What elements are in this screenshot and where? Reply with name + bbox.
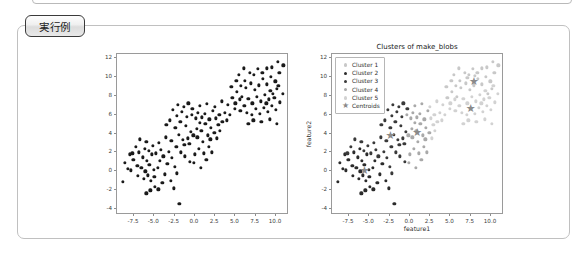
scatter-point	[435, 100, 438, 103]
legend-star-icon: ★	[339, 102, 352, 110]
x-tick-mark	[409, 214, 410, 216]
scatter-point	[492, 85, 495, 88]
scatter-point	[349, 145, 352, 148]
scatter-point	[428, 131, 431, 134]
scatter-point	[358, 147, 361, 150]
scatter-point	[405, 113, 408, 116]
scatter-point	[482, 98, 485, 101]
scatter-point	[486, 92, 489, 95]
scatter-point	[496, 92, 499, 95]
scatter-point	[381, 162, 384, 165]
scatter-point	[386, 157, 389, 160]
x-tick-mark	[348, 214, 349, 216]
legend-entry: ★Centroids	[339, 102, 380, 110]
scatter-point	[396, 139, 399, 142]
y-tick-mark	[329, 95, 331, 96]
scatter-point	[454, 85, 457, 88]
legend-entry-label: Cluster 5	[352, 95, 378, 101]
scatter-point	[401, 137, 404, 140]
scatter-point	[416, 116, 419, 119]
legend-entry-label: Centroids	[352, 103, 380, 109]
scatter-point	[448, 107, 451, 110]
section-tab-label: 実行例	[25, 15, 85, 37]
scatter-point	[493, 71, 496, 74]
y-tick-mark	[329, 114, 331, 115]
scatter-point	[450, 90, 453, 93]
scatter-point	[397, 105, 400, 108]
y-tick-label: 12	[313, 54, 327, 60]
scatter-point	[443, 113, 446, 116]
scatter-point	[357, 177, 360, 180]
cluster-dot-icon	[344, 63, 347, 66]
scatter-point	[433, 129, 436, 132]
scatter-point	[441, 103, 444, 106]
scatter-point	[360, 192, 363, 195]
legend-dot-icon	[339, 88, 352, 91]
scatter-point	[460, 111, 463, 114]
x-tick-mark	[368, 214, 369, 216]
scatter-point	[426, 109, 429, 112]
scatter-point	[372, 188, 375, 191]
scatter-point	[400, 115, 403, 118]
scatter-point	[446, 96, 449, 99]
x-tick-mark	[449, 214, 450, 216]
scatter-point	[445, 85, 448, 88]
scatter-point	[355, 166, 358, 169]
scatter-point	[423, 118, 426, 121]
scatter-point	[364, 179, 367, 182]
legend-entry-label: Cluster 4	[352, 87, 378, 93]
legend-entry-label: Cluster 2	[352, 70, 378, 76]
scatter-point	[336, 180, 339, 183]
scatter-point	[393, 202, 396, 205]
scatter-point	[351, 164, 354, 167]
legend-dot-icon	[339, 80, 352, 83]
centroid-star-marker: ★	[412, 126, 422, 137]
scatter-point	[394, 121, 397, 124]
scatter-point	[369, 152, 372, 155]
scatter-point	[408, 153, 411, 156]
scatter-point	[467, 119, 470, 122]
x-tick-label: -7.5	[343, 218, 354, 224]
cluster-dot-icon	[344, 88, 347, 91]
scatter-point	[472, 67, 475, 70]
execution-example-container: -7.5-5.0-2.50.02.55.07.510.0-4-202468101…	[17, 25, 570, 239]
scatter-point	[430, 137, 433, 140]
x-tick-label: 5.0	[445, 218, 454, 224]
scatter-point	[450, 79, 453, 82]
scatter-point	[475, 121, 478, 124]
legend-entry-label: Cluster 3	[352, 78, 378, 84]
scatter-point	[459, 79, 462, 82]
scatter-point	[490, 87, 493, 90]
scatter-point	[394, 151, 397, 154]
scatter-point	[402, 102, 405, 105]
scatter-point	[463, 71, 466, 74]
scatter-point	[416, 140, 419, 143]
scatter-point	[477, 106, 480, 109]
scatter-point	[395, 110, 398, 113]
y-tick-label: -4	[313, 205, 327, 211]
scatter-point	[420, 103, 423, 106]
y-tick-mark	[329, 76, 331, 77]
scatter-point	[462, 97, 465, 100]
legend-entry: Cluster 2	[339, 69, 380, 77]
scatter-point	[425, 151, 428, 154]
legend-entry-label: Cluster 1	[352, 62, 378, 68]
x-tick-label: 10.0	[484, 218, 496, 224]
scatter-point	[489, 108, 492, 111]
scatter-point	[376, 181, 379, 184]
scatter-point	[346, 152, 349, 155]
scatter-point	[480, 67, 483, 70]
scatter-point	[485, 104, 488, 107]
legend-entry: Cluster 1	[339, 61, 380, 69]
scatter-point	[365, 153, 368, 156]
scatter-point	[380, 123, 383, 126]
scatter-point	[432, 123, 435, 126]
x-tick-label: 2.5	[425, 218, 434, 224]
scatter-point	[353, 138, 356, 141]
scatter-point	[457, 67, 460, 70]
scatter-point	[362, 149, 365, 152]
scatter-point	[388, 165, 391, 168]
scatter-point	[478, 93, 481, 96]
x-tick-label: 7.5	[465, 218, 474, 224]
plot-title-right: Clusters of make_blobs	[376, 43, 457, 51]
